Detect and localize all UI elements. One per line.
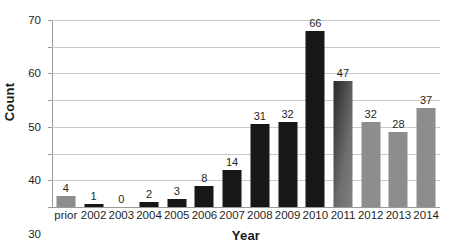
bar-value-label: 37: [420, 94, 432, 106]
bar-value-label: 3: [174, 185, 180, 197]
bar-group: 66: [301, 20, 329, 207]
x-tick-label: 2007: [219, 209, 245, 221]
bar-group: 14: [218, 20, 246, 207]
x-tick-label: 2002: [81, 209, 107, 221]
bar-value-label: 31: [254, 110, 266, 122]
bar-group: 1: [80, 20, 108, 207]
y-tick-label: 50: [28, 121, 41, 133]
x-tick-label: 2009: [275, 209, 301, 221]
bar: [250, 124, 269, 207]
x-tick-label: prior: [54, 209, 77, 221]
x-tick-label: 2003: [108, 209, 134, 221]
gridline: [52, 207, 440, 208]
x-tick-label: 2012: [358, 209, 384, 221]
bar-value-label: 0: [118, 193, 124, 205]
bar: [417, 108, 436, 207]
x-tick-label: 2011: [331, 209, 356, 221]
bar-group: 47: [329, 20, 357, 207]
bar: [139, 202, 158, 207]
y-tick-label: 30: [28, 228, 41, 240]
bar-value-label: 66: [309, 17, 321, 29]
bar: [167, 199, 186, 207]
y-tick-label: 60: [28, 67, 41, 79]
bar-group: 28: [385, 20, 413, 207]
x-tick-label: 2013: [386, 209, 412, 221]
bar-group: 32: [357, 20, 385, 207]
bar-value-label: 32: [365, 108, 377, 120]
bar-group: 2: [135, 20, 163, 207]
bar: [333, 81, 352, 207]
bar: [195, 186, 214, 207]
bar-group: 4: [52, 20, 80, 207]
bar-value-label: 14: [226, 156, 238, 168]
bar-group: 3: [163, 20, 191, 207]
bar: [306, 31, 325, 207]
bar: [389, 132, 408, 207]
bar: [223, 170, 242, 207]
bar: [278, 122, 297, 207]
bar: [56, 196, 75, 207]
x-tick-label: 2008: [247, 209, 273, 221]
bar: [84, 204, 103, 207]
bar-value-label: 4: [63, 182, 69, 194]
bar-group: 32: [274, 20, 302, 207]
x-tick-label: 2005: [164, 209, 190, 221]
y-tick-label: 40: [28, 174, 41, 186]
bar-value-label: 47: [337, 67, 349, 79]
bar-value-label: 1: [90, 190, 96, 202]
bar-group: 31: [246, 20, 274, 207]
bar: [361, 122, 380, 207]
bar-group: 8: [191, 20, 219, 207]
y-axis-title: Count: [2, 0, 20, 228]
plot-area: 010203040506070 4102381431326647322837: [52, 20, 440, 207]
x-tick-label: 2004: [136, 209, 162, 221]
x-tick-label: 2006: [192, 209, 218, 221]
bars-layer: 4102381431326647322837: [52, 20, 440, 207]
bar-value-label: 2: [146, 188, 152, 200]
bar-value-label: 28: [392, 118, 404, 130]
bar-chart: Count 010203040506070 410238143132664732…: [0, 0, 457, 252]
x-tick-label: 2014: [413, 209, 439, 221]
bar-value-label: 32: [281, 108, 293, 120]
x-tick-label: 2010: [302, 209, 328, 221]
bar-group: 0: [107, 20, 135, 207]
bar-group: 37: [412, 20, 440, 207]
bar-value-label: 8: [201, 172, 207, 184]
y-tick-mark: 0: [48, 207, 52, 208]
x-axis-title: Year: [52, 228, 440, 243]
x-axis-tick-labels: prior20022003200420052006200720082009201…: [52, 209, 440, 225]
y-tick-label: 70: [28, 14, 41, 26]
